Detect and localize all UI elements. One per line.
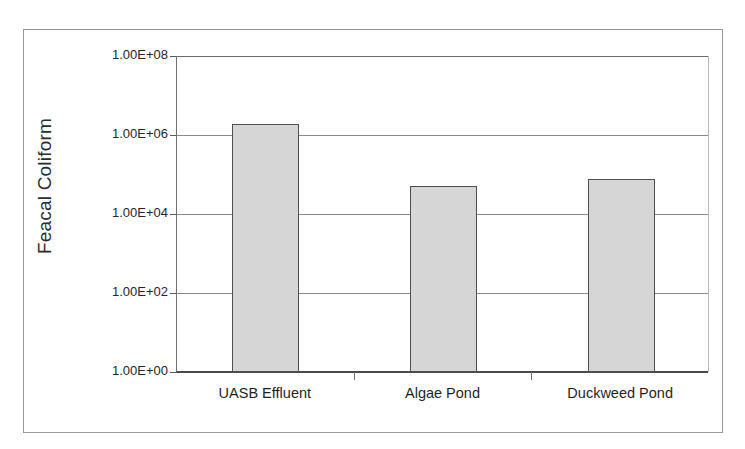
bar (410, 186, 477, 372)
y-axis-title: Feacal Coliform (34, 76, 56, 296)
x-axis-tick-marks (176, 372, 709, 380)
gridline (177, 56, 708, 57)
bar (232, 124, 299, 372)
plot-area (176, 56, 709, 372)
x-axis-tick-label: Algae Pond (354, 385, 532, 401)
y-axis-tick-label: 1.00E+02 (68, 284, 168, 299)
chart-figure: Feacal Coliform 1.00E+081.00E+061.00E+04… (0, 0, 745, 449)
x-axis-tick-mark (531, 372, 532, 380)
x-axis-tick-label: Duckweed Pond (531, 385, 709, 401)
y-axis-tick-labels: 1.00E+081.00E+061.00E+041.00E+021.00E+00 (60, 56, 168, 372)
x-axis-tick-labels: UASB EffluentAlgae PondDuckweed Pond (176, 385, 709, 411)
x-axis-tick-label: UASB Effluent (176, 385, 354, 401)
y-axis-tick-label: 1.00E+06 (68, 126, 168, 141)
y-axis-tick-label: 1.00E+00 (68, 363, 168, 378)
y-axis-tick-label: 1.00E+08 (68, 47, 168, 62)
x-axis-tick-mark (354, 372, 355, 380)
y-axis-tick-label: 1.00E+04 (68, 205, 168, 220)
bar (588, 179, 655, 372)
